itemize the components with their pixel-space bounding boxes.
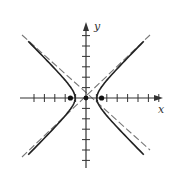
y-axis-label: y xyxy=(93,20,101,33)
x-axis-label: x xyxy=(158,103,165,116)
hyperbola-diagram: x y xyxy=(0,0,179,190)
focus-point xyxy=(99,95,104,100)
center-point xyxy=(84,96,89,101)
focus-point xyxy=(68,95,73,100)
y-axis-arrow-icon xyxy=(83,22,89,31)
